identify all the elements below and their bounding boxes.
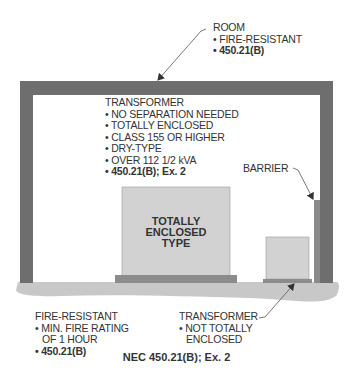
small-transformer-label-item: ENCLOSED — [179, 334, 258, 346]
transformer-open-body — [266, 237, 309, 279]
transformer-box-text-line: TYPE — [122, 238, 230, 249]
small-transformer-label: TRANSFORMER • NOT TOTALLY ENCLOSED — [179, 311, 258, 346]
transformer-label-item: • TOTALLY ENCLOSED — [105, 120, 239, 132]
transformer-enclosed-base — [115, 275, 237, 283]
room-label-title: ROOM — [213, 22, 302, 34]
room-label: ROOM • FIRE-RESISTANT • 450.21(B) — [213, 22, 302, 57]
barrier — [314, 200, 320, 283]
room-label-item: • 450.21(B) — [213, 45, 302, 57]
room-leader-arrow — [158, 29, 206, 80]
room-wall-right — [320, 81, 333, 283]
floor-slab — [16, 282, 339, 302]
transformer-open-base — [263, 279, 312, 283]
barrier-label: BARRIER — [243, 163, 288, 175]
transformer-box-text: TOTALLY ENCLOSED TYPE — [122, 216, 230, 249]
room-wall-left — [20, 81, 33, 283]
floor-label-item: OF 1 HOUR — [35, 334, 129, 346]
transformer-label-item: • DRY-TYPE — [105, 143, 239, 155]
figure-caption: NEC 450.21(B); Ex. 2 — [0, 351, 353, 363]
floor-label-title: FIRE-RESISTANT — [35, 311, 129, 323]
barrier-leader-arrow — [293, 168, 313, 199]
small-transformer-label-title: TRANSFORMER — [179, 311, 258, 323]
barrier-label-text: BARRIER — [243, 163, 288, 175]
room-wall-top — [20, 81, 333, 95]
transformer-label-title: TRANSFORMER — [105, 97, 239, 109]
transformer-label-item: • 450.21(B); Ex. 2 — [105, 166, 239, 178]
transformer-label: TRANSFORMER • NO SEPARATION NEEDED • TOT… — [105, 97, 239, 178]
